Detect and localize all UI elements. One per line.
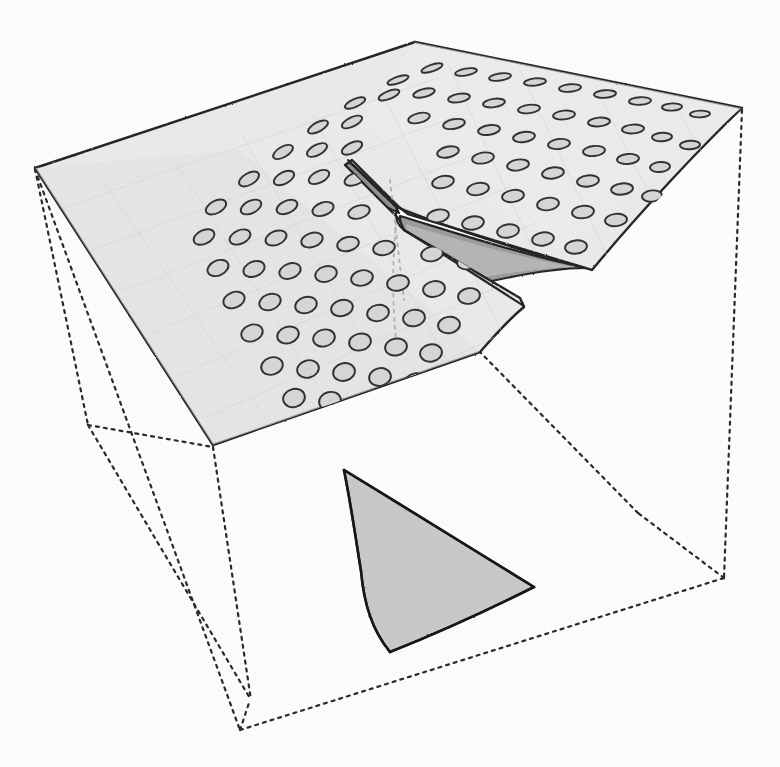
- figure-canvas: [0, 0, 780, 767]
- cusp-catastrophe-figure: [0, 0, 780, 767]
